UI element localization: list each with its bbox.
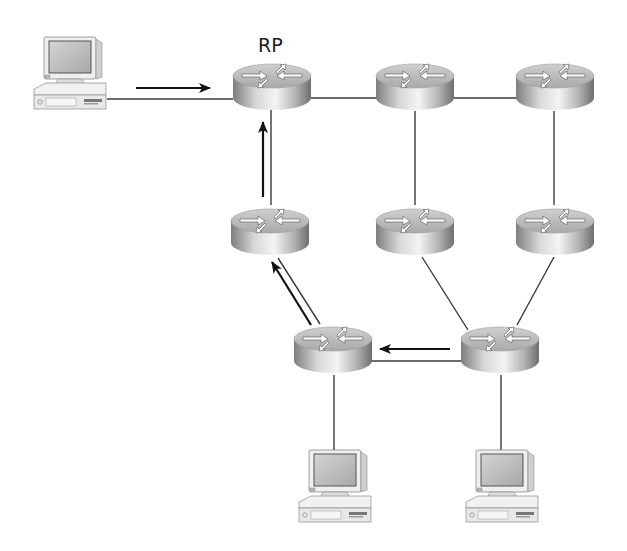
rp-label: RP (258, 34, 283, 56)
router-rp[interactable] (233, 64, 311, 110)
flow-arrow-bottom-left-to-mid-left (272, 262, 311, 325)
router-bottom-left[interactable] (294, 327, 372, 373)
router-top-mid[interactable] (376, 64, 454, 110)
link-mid-right-to-bottom-right (517, 257, 554, 325)
router-top-right[interactable] (516, 64, 594, 110)
workstation-receiver-left[interactable] (299, 450, 371, 522)
workstation-source[interactable] (34, 37, 106, 109)
router-mid-left[interactable] (231, 209, 309, 255)
link-mid-center-to-bottom-right (422, 257, 468, 330)
link-mid-left-to-bottom-left (278, 258, 320, 324)
links (107, 98, 554, 450)
network-diagram: RP (0, 0, 627, 551)
router-bottom-right[interactable] (461, 327, 539, 373)
router-mid-right[interactable] (516, 209, 594, 255)
router-mid-center[interactable] (376, 209, 454, 255)
workstation-receiver-right[interactable] (466, 450, 538, 522)
